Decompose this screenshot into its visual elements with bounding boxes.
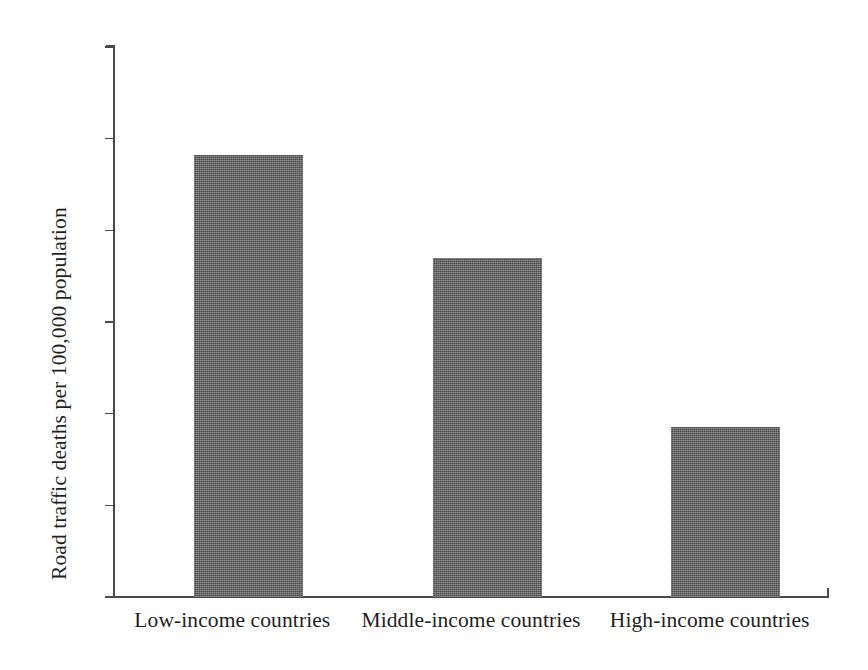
x-axis-category-label: Middle-income countries bbox=[352, 607, 591, 633]
y-axis-tick bbox=[105, 138, 114, 140]
bar bbox=[671, 427, 780, 598]
x-axis-category-label: Low-income countries bbox=[113, 607, 352, 633]
bar bbox=[433, 258, 542, 597]
x-axis-category-label: High-income countries bbox=[590, 607, 829, 633]
x-axis-right-cap bbox=[827, 588, 829, 597]
y-axis-tick bbox=[105, 230, 114, 232]
y-axis-title: Road traffic deaths per 100,000 populati… bbox=[44, 20, 74, 580]
y-axis-tick bbox=[105, 596, 114, 598]
bar-chart: Road traffic deaths per 100,000 populati… bbox=[0, 0, 868, 670]
bar bbox=[194, 155, 303, 597]
y-axis-tick bbox=[105, 46, 114, 48]
y-axis-tick bbox=[105, 321, 114, 323]
y-axis-tick bbox=[105, 505, 114, 507]
y-axis-tick bbox=[105, 413, 114, 415]
